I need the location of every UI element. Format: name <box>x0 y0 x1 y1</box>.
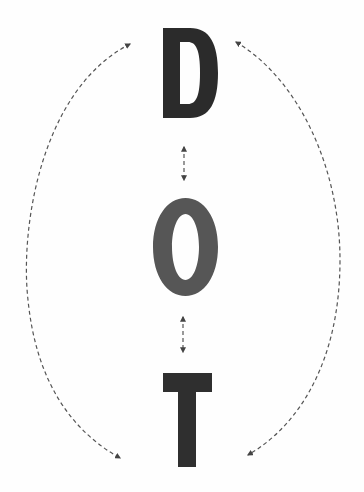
letter-o <box>153 198 218 296</box>
left-arc-arrow <box>26 44 130 458</box>
letter-d <box>163 28 218 118</box>
diagram-canvas: D O T <box>0 0 364 492</box>
letter-t <box>163 373 212 467</box>
diagram-svg <box>0 0 364 492</box>
right-arc-arrow <box>236 42 340 455</box>
